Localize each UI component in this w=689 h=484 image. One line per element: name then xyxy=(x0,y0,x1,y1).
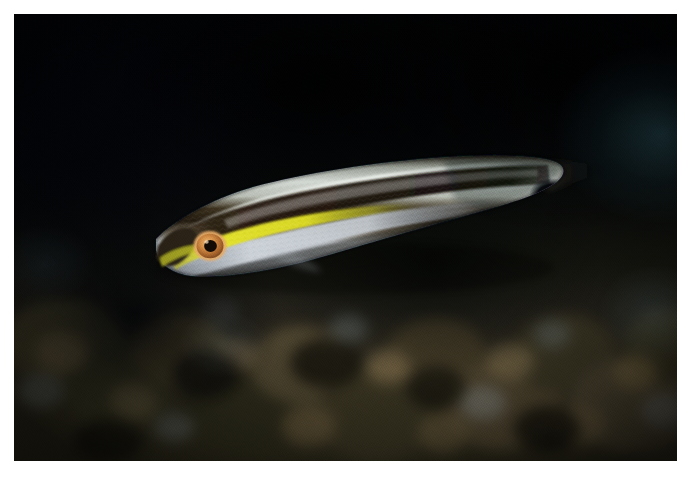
photo-vignette xyxy=(14,14,677,461)
caudal-fin xyxy=(539,162,610,190)
film-grain-texture xyxy=(14,14,677,461)
water-teal-glow xyxy=(14,14,677,461)
reef-base-gradient xyxy=(14,14,677,461)
reef-shadow-masses xyxy=(14,14,677,461)
fish-body xyxy=(154,154,574,284)
fish-depth-shading xyxy=(444,158,562,210)
coral-rubble-texture xyxy=(14,14,677,461)
pectoral-fin xyxy=(274,250,322,272)
plate-caption xyxy=(14,470,614,484)
plate-caption-text xyxy=(14,470,64,482)
fish-subject xyxy=(14,14,677,461)
photograph xyxy=(14,14,677,461)
fish-snout xyxy=(156,228,198,267)
fish-shadow xyxy=(154,242,554,294)
photo-plate xyxy=(0,0,689,484)
fish-eye xyxy=(194,231,227,261)
